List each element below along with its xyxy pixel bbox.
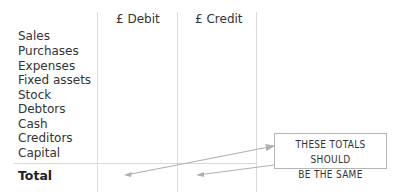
callout-note: THESE TOTALS SHOULD BE THE SAME bbox=[274, 133, 387, 169]
callout-line-1: THESE TOTALS SHOULD bbox=[275, 137, 386, 167]
callout-line-2: BE THE SAME bbox=[275, 167, 386, 182]
